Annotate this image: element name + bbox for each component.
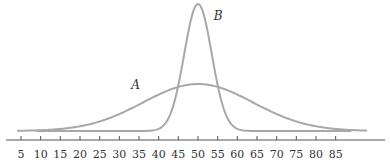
curve-b [37, 4, 352, 131]
x-tick-label: 45 [171, 148, 185, 161]
curve-label-b: B [213, 9, 223, 23]
x-tick-label: 65 [250, 148, 264, 161]
x-tick-label: 75 [289, 148, 303, 161]
distribution-chart: 510152025303540455055606570758085 A B [0, 0, 390, 165]
x-tick-label: 40 [152, 148, 166, 161]
x-tick-label: 5 [18, 148, 25, 161]
x-tick-label: 25 [93, 148, 107, 161]
x-tick-label: 55 [211, 148, 225, 161]
x-tick-label: 20 [73, 148, 87, 161]
x-tick-label: 80 [309, 148, 323, 161]
x-tick-label: 70 [270, 148, 284, 161]
x-tick-label: 30 [112, 148, 126, 161]
x-tick-label: 60 [230, 148, 244, 161]
x-tick-label: 35 [132, 148, 146, 161]
x-tick-label: 15 [53, 148, 67, 161]
curve-a [17, 84, 367, 131]
curve-label-a: A [130, 78, 140, 92]
x-tick-label: 85 [329, 148, 343, 161]
x-tick-label: 50 [191, 148, 205, 161]
x-tick-label: 10 [34, 148, 48, 161]
curves [17, 4, 367, 131]
